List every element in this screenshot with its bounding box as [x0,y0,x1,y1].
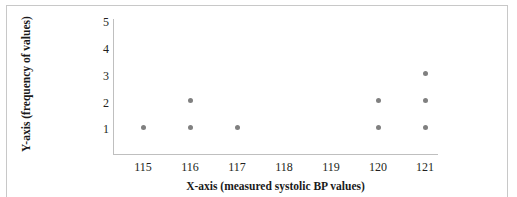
x-tick-label-121: 121 [405,161,445,173]
data-point [423,71,428,76]
data-point [235,125,240,130]
x-tick-label-116: 116 [170,161,210,173]
data-point [188,98,193,103]
x-axis-title: X-axis (measured systolic BP values) [113,180,438,192]
x-tick-label-120: 120 [358,161,398,173]
y-tick-label-1: 1 [91,123,109,135]
x-tick-label-118: 118 [264,161,304,173]
x-tick-label-115: 115 [123,161,163,173]
x-tick-label-117: 117 [217,161,257,173]
y-tick-label-3: 3 [91,70,109,82]
x-axis-line [113,154,438,155]
plot-area: 5 4 3 2 1 115 116 117 118 119 120 121 Y-… [0,0,517,197]
data-point [376,98,381,103]
y-tick-label-group: 5 4 3 2 1 [87,0,109,197]
y-axis-title: Y-axis (frequency of values) [20,4,32,164]
data-point [141,125,146,130]
data-point [376,125,381,130]
figure-container: 5 4 3 2 1 115 116 117 118 119 120 121 Y-… [0,0,517,197]
data-point [423,125,428,130]
data-point [188,125,193,130]
x-tick-label-119: 119 [311,161,351,173]
y-tick-label-2: 2 [91,97,109,109]
y-tick-label-4: 4 [91,43,109,55]
data-point [423,98,428,103]
y-axis-line [113,19,114,155]
y-tick-label-5: 5 [91,16,109,28]
